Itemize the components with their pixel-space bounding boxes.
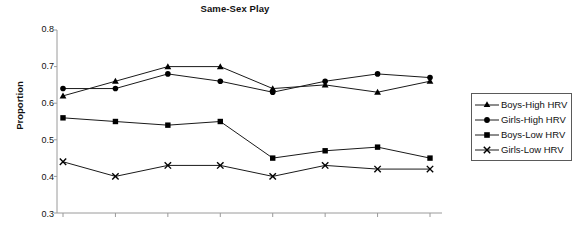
legend-label: Girls-High HRV xyxy=(500,114,566,125)
legend-item[interactable]: Boys-High HRV xyxy=(474,97,567,112)
legend-item[interactable]: Girls-High HRV xyxy=(474,112,567,127)
legend-item[interactable]: Boys-Low HRV xyxy=(474,127,567,142)
legend-marker-triangle-icon xyxy=(474,98,500,112)
legend-item[interactable]: Girls-Low HRV xyxy=(474,142,567,157)
axes xyxy=(54,30,442,217)
legend: Boys-High HRV Girls-High HRV Boys-Low HR… xyxy=(471,93,572,161)
legend-label: Girls-Low HRV xyxy=(500,144,564,155)
data-series xyxy=(60,63,434,179)
legend-marker-cross-x-icon xyxy=(474,143,500,157)
legend-marker-circle-icon xyxy=(474,113,500,127)
chart-figure: Same-Sex Play Proportion 0.8 0.7 0.6 0.5… xyxy=(0,0,583,232)
legend-label: Boys-High HRV xyxy=(500,99,567,110)
legend-marker-square-icon xyxy=(474,128,500,142)
legend-label: Boys-Low HRV xyxy=(500,129,565,140)
